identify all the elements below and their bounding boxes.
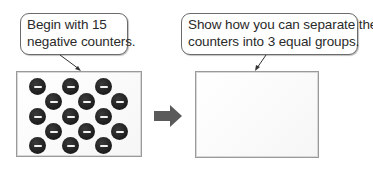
negative-counter bbox=[78, 93, 95, 110]
negative-counter bbox=[29, 137, 46, 154]
negative-counter bbox=[62, 78, 79, 95]
left-callout: Begin with 15 negative counters. bbox=[20, 13, 128, 55]
left-callout-line-2: negative counters. bbox=[27, 33, 121, 50]
negative-counter bbox=[62, 137, 79, 154]
right-callout-line-1: Show how you can separate the bbox=[188, 16, 351, 33]
negative-counter bbox=[45, 93, 62, 110]
counters-box bbox=[16, 71, 142, 157]
right-callout-line-2: counters into 3 equal groups. bbox=[188, 33, 351, 50]
negative-counter bbox=[78, 123, 95, 140]
negative-counter bbox=[111, 93, 128, 110]
negative-counter bbox=[62, 108, 79, 125]
negative-counter bbox=[95, 137, 112, 154]
negative-counter bbox=[29, 108, 46, 125]
left-callout-line-1: Begin with 15 bbox=[27, 16, 121, 33]
right-arrow-icon bbox=[154, 105, 184, 127]
answer-box bbox=[195, 71, 319, 158]
negative-counter bbox=[111, 123, 128, 140]
negative-counter bbox=[95, 108, 112, 125]
negative-counter bbox=[29, 78, 46, 95]
negative-counter bbox=[95, 78, 112, 95]
right-callout: Show how you can separate the counters i… bbox=[181, 13, 358, 55]
negative-counter bbox=[45, 123, 62, 140]
